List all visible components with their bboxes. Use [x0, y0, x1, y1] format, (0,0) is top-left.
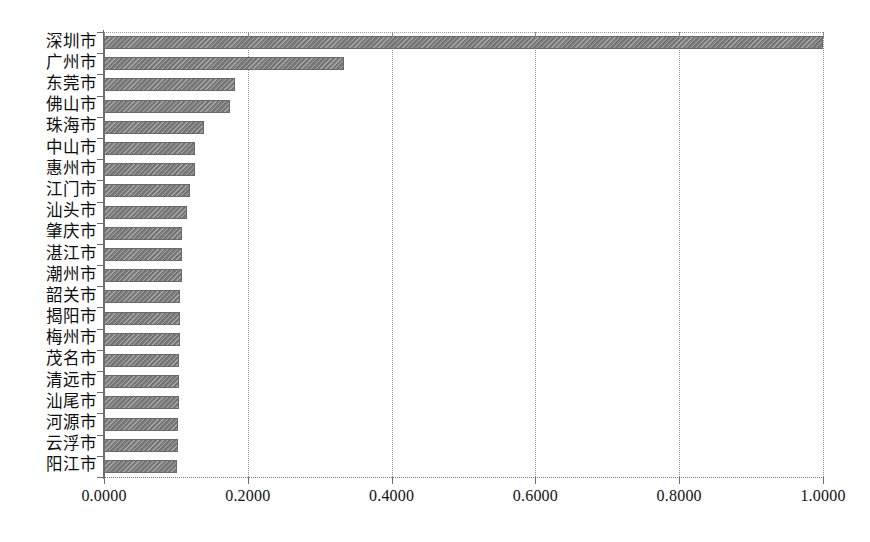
y-axis-category-label: 阳江市 [46, 457, 97, 474]
y-axis-category-label: 深圳市 [46, 34, 97, 51]
y-axis-category-label: 云浮市 [46, 436, 97, 453]
bar [104, 184, 190, 197]
y-axis-tick [97, 96, 104, 97]
bar [104, 333, 180, 346]
x-axis-tick-top [248, 32, 249, 38]
bar [104, 354, 179, 367]
bar [104, 248, 182, 261]
bar [104, 206, 187, 219]
x-axis-tick-label: 0.6000 [475, 487, 595, 505]
y-axis-category-label: 广州市 [46, 55, 97, 72]
y-axis-tick [97, 202, 104, 203]
bar [104, 460, 177, 473]
gridline-x-0.4000 [392, 32, 393, 477]
bar [104, 121, 204, 134]
bar [104, 163, 195, 176]
y-axis-tick [97, 435, 104, 436]
x-axis-tick [248, 477, 249, 484]
x-axis-tick-top [535, 32, 536, 38]
x-axis-tick [679, 477, 680, 484]
y-axis-tick [97, 307, 104, 308]
bar [104, 418, 178, 431]
x-axis-tick-top [392, 32, 393, 38]
bar [104, 439, 178, 452]
bar [104, 142, 195, 155]
bar [104, 375, 179, 388]
bar-chart: 深圳市广州市东莞市佛山市珠海市中山市惠州市江门市汕头市肇庆市湛江市潮州市韶关市揭… [0, 0, 870, 542]
x-axis-tick-label: 0.4000 [332, 487, 452, 505]
y-axis-category-label: 中山市 [46, 140, 97, 157]
y-axis-tick [97, 74, 104, 75]
x-axis-tick-label: 1.0000 [763, 487, 870, 505]
y-axis-category-label: 珠海市 [46, 118, 97, 135]
y-axis-tick [97, 117, 104, 118]
y-axis-tick [97, 413, 104, 414]
gridline-x-0.2000 [248, 32, 249, 477]
y-axis-category-label: 湛江市 [46, 246, 97, 263]
bar [104, 100, 230, 113]
y-axis-tick [97, 138, 104, 139]
y-axis-tick [97, 32, 104, 33]
bar [104, 312, 180, 325]
x-axis-line [103, 477, 824, 478]
x-axis-tick [392, 477, 393, 484]
y-axis-category-label: 汕尾市 [46, 394, 97, 411]
y-axis-category-label: 潮州市 [46, 267, 97, 284]
x-axis-tick-label: 0.0000 [44, 487, 164, 505]
x-axis-tick-top [823, 32, 824, 38]
y-axis-tick [97, 456, 104, 457]
y-axis-category-label: 茂名市 [46, 351, 97, 368]
y-axis-line [103, 30, 104, 479]
y-axis-tick [97, 244, 104, 245]
bar [104, 78, 235, 91]
x-axis-tick-top [104, 32, 105, 38]
y-axis-tick [97, 286, 104, 287]
y-axis-category-label: 河源市 [46, 415, 97, 432]
y-axis-tick [97, 477, 104, 478]
y-axis-category-label: 佛山市 [46, 97, 97, 114]
y-axis-tick [97, 159, 104, 160]
gridline-x-1.0000 [823, 32, 824, 477]
x-axis-tick-label: 0.2000 [188, 487, 308, 505]
y-axis-tick [97, 371, 104, 372]
bar [104, 57, 344, 70]
x-axis-tick-top [679, 32, 680, 38]
y-axis-tick [97, 53, 104, 54]
y-axis-tick [97, 350, 104, 351]
y-axis-tick [97, 180, 104, 181]
y-axis-category-label: 肇庆市 [46, 224, 97, 241]
x-axis-tick [823, 477, 824, 484]
plot-area [104, 32, 823, 477]
x-axis-tick-label: 0.8000 [619, 487, 739, 505]
y-axis-category-label: 韶关市 [46, 288, 97, 305]
gridline-x-0.6000 [535, 32, 536, 477]
y-axis-category-label: 汕头市 [46, 203, 97, 220]
x-axis-tick [535, 477, 536, 484]
y-axis-category-label: 惠州市 [46, 161, 97, 178]
bar [104, 290, 180, 303]
y-axis-category-label: 东莞市 [46, 76, 97, 93]
bar [104, 396, 179, 409]
y-axis-tick [97, 329, 104, 330]
x-axis-tick [104, 477, 105, 484]
y-axis-category-label: 江门市 [46, 182, 97, 199]
y-axis-tick [97, 223, 104, 224]
bar [104, 227, 182, 240]
plot-frame-top [104, 32, 823, 33]
bar [104, 36, 823, 49]
bar [104, 269, 182, 282]
y-axis-tick [97, 392, 104, 393]
y-axis-category-label: 揭阳市 [46, 309, 97, 326]
y-axis-category-label: 梅州市 [46, 330, 97, 347]
gridline-x-0.8000 [679, 32, 680, 477]
y-axis-tick [97, 265, 104, 266]
y-axis-category-label: 清远市 [46, 373, 97, 390]
